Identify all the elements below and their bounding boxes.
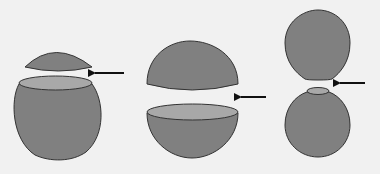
large-sphere-body	[14, 84, 101, 160]
diagram-canvas	[0, 0, 380, 174]
small-cap-shape	[25, 53, 92, 72]
lower-sphere	[285, 92, 350, 157]
panel-1-small-cap-split	[14, 53, 124, 160]
cut-face	[307, 88, 329, 95]
cut-face	[19, 76, 92, 90]
cut-face	[147, 104, 238, 120]
panel-2-hemisphere-split	[147, 41, 266, 158]
upper-sphere	[285, 10, 350, 80]
panel-3-pinched-split	[285, 10, 365, 157]
top-hemisphere	[147, 41, 238, 90]
